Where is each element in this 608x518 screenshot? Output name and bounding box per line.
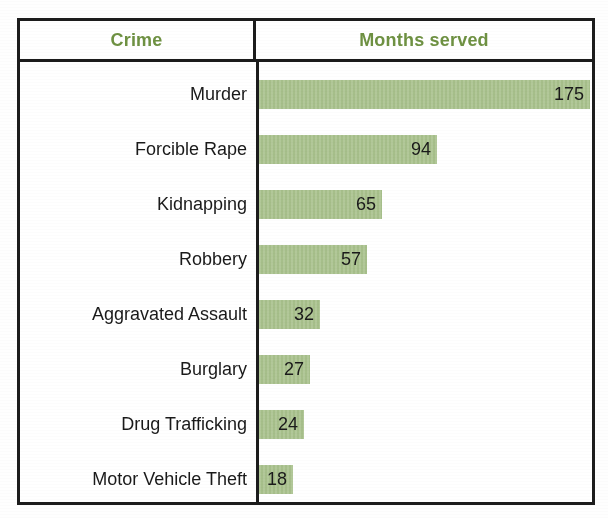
bar-cell: 27 — [259, 342, 592, 397]
table-body: Murder175Forcible Rape94Kidnapping65Robb… — [20, 62, 592, 502]
bar-value-label: 18 — [267, 469, 293, 490]
crime-label: Robbery — [20, 249, 256, 270]
crime-months-table: Crime Months served Murder175Forcible Ra… — [17, 18, 595, 505]
column-header-crime: Crime — [20, 21, 256, 59]
bar-value-label: 94 — [411, 139, 437, 160]
months-served-bar: 57 — [259, 245, 367, 274]
table-rows: Murder175Forcible Rape94Kidnapping65Robb… — [20, 62, 592, 502]
crime-label: Burglary — [20, 359, 256, 380]
page-canvas: Crime Months served Murder175Forcible Ra… — [0, 0, 608, 518]
table-row: Aggravated Assault32 — [20, 287, 592, 342]
table-row: Robbery57 — [20, 232, 592, 287]
months-served-bar: 27 — [259, 355, 310, 384]
months-served-bar: 65 — [259, 190, 382, 219]
bar-value-label: 32 — [294, 304, 320, 325]
bar-cell: 32 — [259, 287, 592, 342]
table-row: Kidnapping65 — [20, 177, 592, 232]
bar-value-label: 57 — [341, 249, 367, 270]
bar-value-label: 27 — [284, 359, 310, 380]
bar-cell: 18 — [259, 452, 592, 507]
table-row: Drug Trafficking24 — [20, 397, 592, 452]
bar-cell: 94 — [259, 122, 592, 177]
crime-label: Kidnapping — [20, 194, 256, 215]
table-row: Burglary27 — [20, 342, 592, 397]
crime-label: Aggravated Assault — [20, 304, 256, 325]
months-served-bar: 24 — [259, 410, 304, 439]
months-served-bar: 94 — [259, 135, 437, 164]
crime-label: Drug Trafficking — [20, 414, 256, 435]
crime-label: Murder — [20, 84, 256, 105]
crime-label: Motor Vehicle Theft — [20, 469, 256, 490]
bar-value-label: 175 — [554, 84, 590, 105]
bar-cell: 24 — [259, 397, 592, 452]
column-header-months-served: Months served — [256, 21, 592, 59]
crime-label: Forcible Rape — [20, 139, 256, 160]
table-row: Murder175 — [20, 67, 592, 122]
table-header-row: Crime Months served — [20, 21, 592, 62]
bar-value-label: 24 — [278, 414, 304, 435]
months-served-bar: 18 — [259, 465, 293, 494]
bar-cell: 57 — [259, 232, 592, 287]
months-served-bar: 32 — [259, 300, 320, 329]
bar-cell: 65 — [259, 177, 592, 232]
bar-cell: 175 — [259, 67, 592, 122]
table-row: Motor Vehicle Theft18 — [20, 452, 592, 507]
table-row: Forcible Rape94 — [20, 122, 592, 177]
months-served-bar: 175 — [259, 80, 590, 109]
bar-value-label: 65 — [356, 194, 382, 215]
